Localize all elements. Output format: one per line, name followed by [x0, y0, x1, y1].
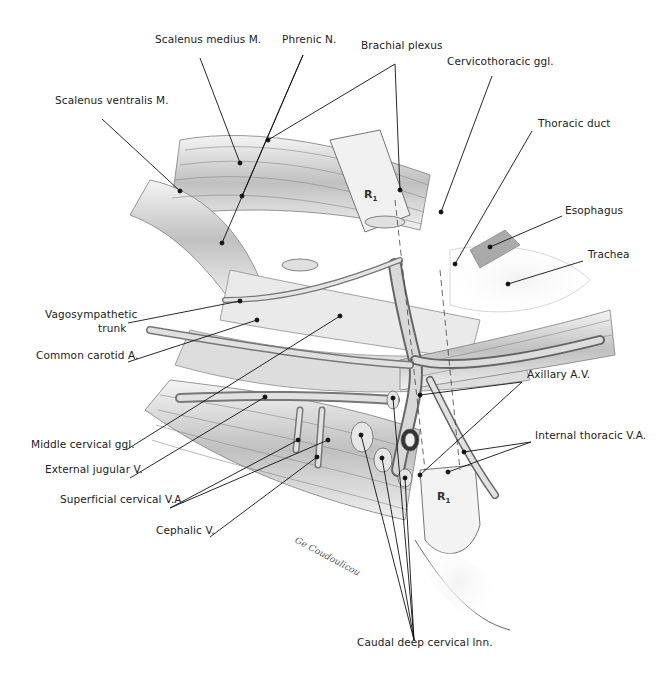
leader-dot	[380, 456, 384, 460]
label-common-carotid: Common carotid A.	[36, 349, 138, 361]
leader-dot	[359, 433, 363, 437]
label-vagosympathetic-trunk-2: trunk	[98, 322, 126, 334]
label-superficial-cervical-va: Superficial cervical V.A.	[60, 493, 185, 505]
label-trachea: Trachea	[588, 248, 630, 260]
label-thoracic-duct: Thoracic duct	[538, 117, 611, 129]
leader-dot	[263, 395, 267, 399]
leader-dot	[266, 138, 270, 142]
leader-dot	[439, 210, 443, 214]
label-caudal-deep-cervical-lnn: Caudal deep cervical lnn.	[357, 636, 493, 648]
leader-dot	[255, 318, 259, 322]
leader-line	[102, 119, 180, 191]
leader-dot	[488, 245, 492, 249]
leader-dot	[446, 470, 450, 474]
leader-dot	[178, 189, 182, 193]
label-cephalic-v: Cephalic V.	[156, 524, 215, 536]
label-internal-thoracic-va: Internal thoracic V.A.	[535, 429, 646, 441]
leader-line	[490, 216, 562, 247]
label-scalenus-medius: Scalenus medius M.	[155, 33, 261, 45]
label-phrenic-n: Phrenic N.	[282, 33, 336, 45]
leader-dot	[418, 393, 422, 397]
leader-dot	[403, 476, 407, 480]
label-cervicothoracic-ggl: Cervicothoracic ggl.	[447, 55, 554, 67]
label-external-jugular: External jugular V.	[45, 463, 143, 475]
leader-dot	[220, 241, 224, 245]
leader-dot	[326, 438, 330, 442]
label-esophagus: Esophagus	[565, 204, 623, 216]
label-scalenus-ventralis: Scalenus ventralis M.	[55, 94, 169, 106]
leader-line	[441, 76, 492, 212]
rib-1-lower	[420, 465, 480, 554]
leader-dot	[338, 314, 342, 318]
leader-line	[268, 64, 395, 140]
leader-dot	[506, 282, 510, 286]
leader-dot	[296, 438, 300, 442]
label-axillary-av: Axillary A.V.	[527, 368, 590, 380]
trachea-shape	[450, 246, 590, 312]
rib-label-r1-top: R1	[364, 188, 377, 203]
leader-line	[464, 442, 531, 452]
leader-dot	[398, 188, 402, 192]
label-brachial-plexus: Brachial plexus	[361, 39, 443, 51]
label-middle-cervical-ggl: Middle cervical ggl.	[31, 438, 135, 450]
leader-dot	[238, 299, 242, 303]
leader-dot	[315, 455, 319, 459]
leader-dot	[462, 450, 466, 454]
anatomy-figure: Scalenus medius M.Phrenic N.Brachial ple…	[0, 0, 662, 698]
label-vagosympathetic-trunk-1: Vagosympathetic	[45, 308, 137, 320]
leader-dot	[238, 161, 242, 165]
leader-dot	[453, 262, 457, 266]
rib-label-r1-bottom: R1	[437, 490, 450, 505]
leader-dot	[418, 473, 422, 477]
leader-dot	[391, 396, 395, 400]
